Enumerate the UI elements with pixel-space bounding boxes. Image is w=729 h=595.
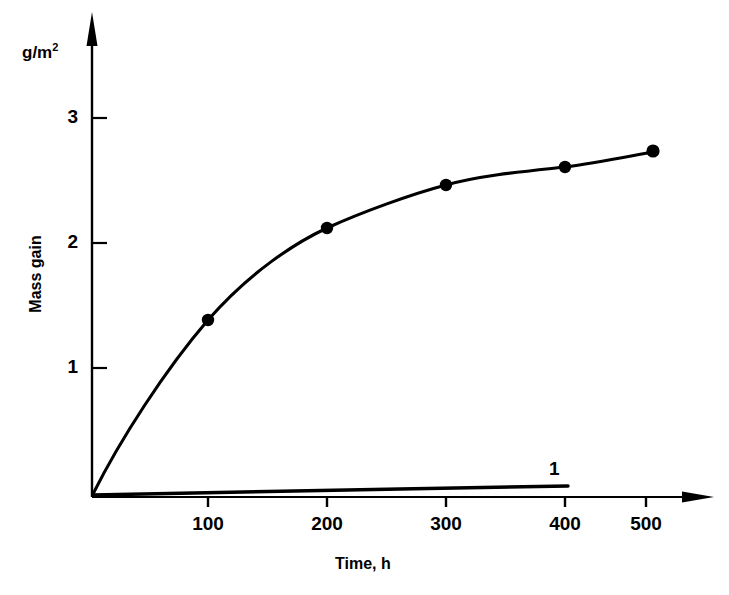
x-tick-marks — [208, 497, 646, 507]
series-curve-lower — [93, 486, 568, 495]
chart-plot-area — [0, 0, 729, 595]
x-tick-label-500: 500 — [616, 513, 676, 535]
y-axis-unit-label: g/m2 — [22, 43, 58, 63]
y-tick-label-1: 1 — [52, 356, 78, 378]
y-axis-unit-text: g/m — [22, 43, 52, 62]
y-axis — [87, 12, 98, 497]
y-axis-unit-exponent: 2 — [52, 41, 58, 53]
chart-figure: g/m2 Mass gain 3 2 1 100 200 300 400 500… — [0, 0, 729, 595]
x-tick-label-300: 300 — [416, 513, 476, 535]
y-tick-label-2: 2 — [52, 231, 78, 253]
x-tick-label-100: 100 — [178, 513, 238, 535]
x-axis-title: Time, h — [335, 555, 391, 573]
y-tick-marks — [92, 118, 107, 368]
y-axis-title: Mass gain — [27, 219, 45, 329]
x-tick-label-400: 400 — [535, 513, 595, 535]
series-curve-upper — [93, 152, 653, 494]
series-annotation-1: 1 — [549, 458, 560, 480]
x-tick-label-200: 200 — [297, 513, 357, 535]
y-tick-label-3: 3 — [52, 106, 78, 128]
series-markers-upper — [202, 144, 660, 326]
